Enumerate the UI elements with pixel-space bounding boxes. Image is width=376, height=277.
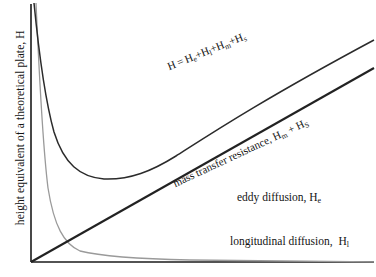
annotation-longitudinal-diffusion-text: longitudinal diffusion, Hl (230, 235, 349, 247)
van-deemter-figure: height equivalent of a theoretical plate… (0, 0, 376, 277)
annotation-eddy-diffusion-text: eddy diffusion, He (237, 191, 321, 203)
y-axis-label: height equivalent of a theoretical plate… (15, 3, 27, 253)
curve-longitudinal-diffusion (36, 3, 374, 262)
curve-total-h (34, 3, 374, 179)
annotation-longitudinal-diffusion: longitudinal diffusion, Hl (230, 236, 349, 248)
annotation-eddy-diffusion: eddy diffusion, He (237, 192, 321, 204)
